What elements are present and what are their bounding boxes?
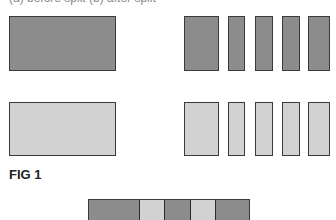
cut-off-caption: (a) before split (b) after split: [9, 0, 156, 5]
interleaved-strip: [88, 199, 250, 220]
part-block-dark-1: [184, 16, 219, 71]
whole-block-dark: [9, 16, 116, 71]
part-block-dark-2: [228, 16, 245, 71]
part-block-light-2: [228, 102, 245, 156]
strip-segment-light-2: [191, 200, 217, 220]
strip-segment-dark-2: [165, 200, 191, 220]
part-block-dark-3: [255, 16, 273, 71]
part-block-light-4: [282, 102, 300, 156]
whole-block-light: [9, 102, 116, 156]
strip-segment-dark-1: [89, 200, 140, 220]
part-block-light-1: [184, 102, 219, 156]
part-block-dark-5: [308, 16, 330, 71]
part-block-light-5: [308, 102, 330, 156]
strip-segment-dark-3: [216, 200, 249, 220]
part-block-light-3: [255, 102, 273, 156]
strip-segment-light-1: [140, 200, 165, 220]
figure-label: FIG 1: [9, 167, 42, 182]
part-block-dark-4: [282, 16, 300, 71]
